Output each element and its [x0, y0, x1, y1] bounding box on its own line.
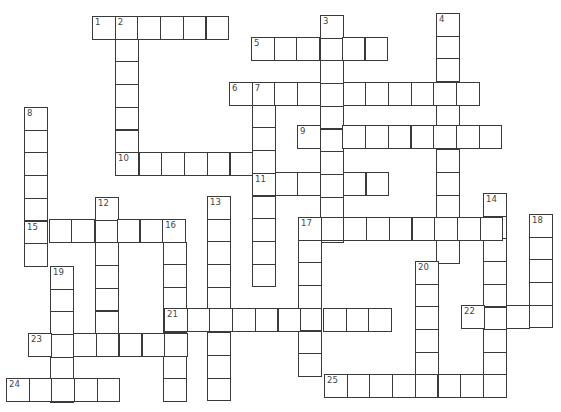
- crossword-cell[interactable]: [296, 37, 320, 61]
- crossword-cell[interactable]: [343, 217, 367, 241]
- crossword-cell[interactable]: [232, 308, 256, 332]
- crossword-cell[interactable]: [415, 329, 439, 353]
- crossword-cell[interactable]: [415, 306, 439, 330]
- crossword-cell[interactable]: [433, 82, 457, 106]
- crossword-cell[interactable]: 14: [483, 193, 507, 217]
- crossword-cell[interactable]: [97, 378, 121, 402]
- crossword-cell[interactable]: 4: [436, 13, 460, 37]
- crossword-cell[interactable]: [183, 16, 207, 40]
- crossword-cell[interactable]: [274, 37, 298, 61]
- crossword-cell[interactable]: [160, 16, 184, 40]
- crossword-cell[interactable]: 15: [24, 221, 48, 245]
- crossword-cell[interactable]: [389, 217, 413, 241]
- crossword-cell[interactable]: [207, 287, 231, 311]
- crossword-cell[interactable]: [298, 240, 322, 264]
- crossword-cell[interactable]: [346, 308, 370, 332]
- crossword-cell[interactable]: [436, 195, 460, 219]
- crossword-cell[interactable]: [365, 37, 389, 61]
- crossword-cell[interactable]: [456, 125, 480, 149]
- crossword-cell[interactable]: [137, 16, 161, 40]
- crossword-cell[interactable]: [51, 378, 75, 402]
- crossword-cell[interactable]: [436, 104, 460, 128]
- crossword-cell[interactable]: [115, 84, 139, 108]
- crossword-cell[interactable]: 10: [115, 152, 139, 176]
- crossword-cell[interactable]: [438, 374, 462, 398]
- crossword-cell[interactable]: [343, 82, 367, 106]
- crossword-cell[interactable]: [483, 374, 507, 398]
- crossword-cell[interactable]: [368, 308, 392, 332]
- crossword-cell[interactable]: 21: [164, 308, 188, 332]
- crossword-cell[interactable]: [529, 282, 553, 306]
- crossword-cell[interactable]: [252, 241, 276, 265]
- crossword-cell[interactable]: [529, 237, 553, 261]
- crossword-cell[interactable]: [388, 125, 412, 149]
- crossword-cell[interactable]: [24, 130, 48, 154]
- crossword-cell[interactable]: [184, 152, 208, 176]
- crossword-cell[interactable]: [161, 152, 185, 176]
- crossword-cell[interactable]: 24: [6, 378, 30, 402]
- crossword-cell[interactable]: 25: [324, 374, 348, 398]
- crossword-cell[interactable]: [320, 38, 344, 62]
- crossword-cell[interactable]: [163, 378, 187, 402]
- crossword-cell[interactable]: 2: [115, 16, 139, 40]
- crossword-cell[interactable]: [436, 172, 460, 196]
- crossword-cell[interactable]: [230, 152, 254, 176]
- crossword-cell[interactable]: [483, 238, 507, 262]
- crossword-cell[interactable]: 9: [297, 125, 321, 149]
- crossword-cell[interactable]: [342, 37, 366, 61]
- crossword-cell[interactable]: [388, 82, 412, 106]
- crossword-cell[interactable]: [320, 60, 344, 84]
- crossword-cell[interactable]: [207, 332, 231, 356]
- crossword-cell[interactable]: [252, 264, 276, 288]
- crossword-cell[interactable]: [369, 374, 393, 398]
- crossword-cell[interactable]: 13: [207, 196, 231, 220]
- crossword-cell[interactable]: 19: [50, 266, 74, 290]
- crossword-cell[interactable]: [252, 127, 276, 151]
- crossword-cell[interactable]: [252, 105, 276, 129]
- crossword-cell[interactable]: [95, 333, 119, 357]
- crossword-cell[interactable]: [119, 333, 143, 357]
- crossword-cell[interactable]: [460, 374, 484, 398]
- crossword-cell[interactable]: [207, 219, 231, 243]
- crossword-cell[interactable]: [457, 217, 481, 241]
- crossword-cell[interactable]: [73, 333, 97, 357]
- crossword-cell[interactable]: 17: [298, 217, 322, 241]
- crossword-cell[interactable]: [483, 261, 507, 285]
- crossword-cell[interactable]: [275, 172, 299, 196]
- crossword-cell[interactable]: [412, 217, 436, 241]
- crossword-cell[interactable]: 12: [95, 197, 119, 221]
- crossword-cell[interactable]: [320, 151, 344, 175]
- crossword-cell[interactable]: [206, 16, 230, 40]
- crossword-cell[interactable]: [164, 333, 188, 357]
- crossword-cell[interactable]: [506, 305, 530, 329]
- crossword-cell[interactable]: [480, 217, 504, 241]
- crossword-cell[interactable]: 20: [415, 261, 439, 285]
- crossword-cell[interactable]: [343, 172, 367, 196]
- crossword-cell[interactable]: [298, 308, 322, 332]
- crossword-cell[interactable]: 7: [252, 82, 276, 106]
- crossword-cell[interactable]: [252, 196, 276, 220]
- crossword-cell[interactable]: [95, 242, 119, 266]
- crossword-cell[interactable]: [347, 374, 371, 398]
- crossword-cell[interactable]: [323, 308, 347, 332]
- crossword-cell[interactable]: [320, 83, 344, 107]
- crossword-cell[interactable]: [411, 125, 435, 149]
- crossword-cell[interactable]: [139, 152, 163, 176]
- crossword-cell[interactable]: [436, 36, 460, 60]
- crossword-cell[interactable]: [298, 285, 322, 309]
- crossword-cell[interactable]: [117, 219, 141, 243]
- crossword-cell[interactable]: [436, 58, 460, 82]
- crossword-cell[interactable]: [24, 198, 48, 222]
- crossword-cell[interactable]: 23: [28, 333, 52, 357]
- crossword-cell[interactable]: [207, 264, 231, 288]
- crossword-cell[interactable]: [479, 125, 503, 149]
- crossword-cell[interactable]: [456, 82, 480, 106]
- crossword-cell[interactable]: [50, 334, 74, 358]
- crossword-cell[interactable]: [298, 353, 322, 377]
- crossword-cell[interactable]: [29, 378, 53, 402]
- crossword-cell[interactable]: 6: [229, 82, 253, 106]
- crossword-cell[interactable]: [207, 152, 231, 176]
- crossword-cell[interactable]: 3: [320, 15, 344, 39]
- crossword-cell[interactable]: [163, 242, 187, 266]
- crossword-cell[interactable]: [115, 61, 139, 85]
